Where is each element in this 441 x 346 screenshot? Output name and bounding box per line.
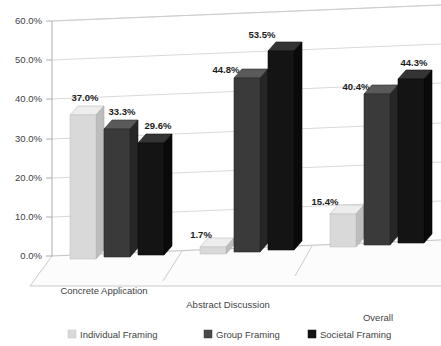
y-tick-10: 10.0% xyxy=(15,211,42,222)
data-label-overall-societal: 44.3% xyxy=(401,57,428,68)
legend-label-societal-framing: Societal Framing xyxy=(320,329,391,340)
legend-item-individual-framing[interactable]: Individual Framing xyxy=(68,329,158,340)
y-tick-20: 20.0% xyxy=(15,172,42,183)
y-tick-30: 30.0% xyxy=(15,133,42,144)
legend-swatch-individual-framing xyxy=(68,330,76,338)
bar-overall-societal[interactable] xyxy=(398,70,432,243)
bar-abstract-group[interactable] xyxy=(234,69,268,252)
bar-overall-group[interactable] xyxy=(364,85,398,245)
data-label-abstract-group: 44.8% xyxy=(213,64,240,75)
y-tick-50: 50.0% xyxy=(15,54,42,65)
y-tick-40: 40.0% xyxy=(15,93,42,104)
x-label-abstract-discussion: Abstract Discussion xyxy=(186,299,269,310)
x-label-overall: Overall xyxy=(363,312,393,323)
legend-label-individual-framing: Individual Framing xyxy=(80,329,158,340)
bar-overall-individual[interactable] xyxy=(330,205,364,247)
bar-concrete-individual[interactable] xyxy=(70,106,104,259)
chart-legend: Individual Framing Group Framing Societa… xyxy=(68,329,391,340)
bar-chart-3d: 60.0% 50.0% 40.0% 30.0% 20.0% 10.0% 0.0%… xyxy=(0,0,441,346)
y-tick-0: 0.0% xyxy=(20,250,42,261)
y-tick-60: 60.0% xyxy=(15,15,42,26)
data-label-concrete-societal: 29.6% xyxy=(145,120,172,131)
legend-item-societal-framing[interactable]: Societal Framing xyxy=(308,329,391,340)
bar-abstract-societal[interactable] xyxy=(268,42,302,250)
data-label-concrete-individual: 37.0% xyxy=(72,92,99,103)
bar-concrete-group[interactable] xyxy=(104,120,138,257)
legend-label-group-framing: Group Framing xyxy=(216,329,280,340)
y-axis-ticks xyxy=(46,21,52,256)
y-axis-labels: 60.0% 50.0% 40.0% 30.0% 20.0% 10.0% 0.0% xyxy=(15,15,42,261)
chart-container: 60.0% 50.0% 40.0% 30.0% 20.0% 10.0% 0.0%… xyxy=(0,0,441,346)
data-label-overall-group: 40.4% xyxy=(343,81,370,92)
x-axis-labels: Concrete Application Abstract Discussion… xyxy=(60,285,393,323)
x-label-concrete-application: Concrete Application xyxy=(60,285,147,296)
legend-item-group-framing[interactable]: Group Framing xyxy=(204,329,280,340)
legend-swatch-societal-framing xyxy=(308,330,316,338)
data-label-abstract-societal: 53.5% xyxy=(249,29,276,40)
data-label-overall-individual: 15.4% xyxy=(312,196,339,207)
data-label-abstract-individual: 1.7% xyxy=(190,229,212,240)
data-label-concrete-group: 33.3% xyxy=(109,106,136,117)
legend-swatch-group-framing xyxy=(204,330,212,338)
bar-concrete-societal[interactable] xyxy=(138,134,172,255)
